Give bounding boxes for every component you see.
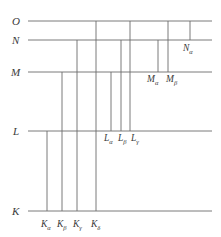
transition-label-M-alpha: Mα bbox=[147, 75, 158, 86]
subscript-N-alpha: α bbox=[189, 48, 192, 55]
subscript-K-gamma: γ bbox=[79, 224, 82, 231]
transition-label-M-beta: Mβ bbox=[166, 75, 177, 86]
transition-label-K-gamma: Kγ bbox=[73, 220, 82, 231]
subscript-K-delta: δ bbox=[97, 224, 100, 231]
transition-label-K-beta: Kβ bbox=[57, 220, 67, 231]
subscript-K-alpha: α bbox=[47, 224, 50, 231]
subscript-L-beta: β bbox=[123, 138, 126, 145]
transition-lines bbox=[47, 21, 190, 211]
energy-level-diagram: ONMLK KαKβKγKδLαLβLγMαMβNα bbox=[0, 0, 221, 237]
subscript-K-beta: β bbox=[63, 224, 66, 231]
subscript-L-alpha: α bbox=[109, 138, 112, 145]
transition-label-K-delta: Kδ bbox=[91, 220, 100, 231]
transition-label-L-gamma: Lγ bbox=[131, 134, 139, 145]
subscript-L-gamma: γ bbox=[136, 138, 139, 145]
diagram-canvas bbox=[0, 0, 221, 237]
level-label-n: N bbox=[12, 35, 19, 46]
transition-label-L-alpha: Lα bbox=[104, 134, 113, 145]
level-label-o: O bbox=[12, 16, 20, 27]
subscript-M-beta: β bbox=[174, 79, 177, 86]
transition-label-K-alpha: Kα bbox=[41, 220, 51, 231]
transition-label-N-alpha: Nα bbox=[183, 44, 193, 55]
level-label-l: L bbox=[13, 126, 19, 137]
level-label-m: M bbox=[11, 67, 20, 78]
subscript-M-alpha: α bbox=[155, 79, 158, 86]
transition-label-L-beta: Lβ bbox=[118, 134, 127, 145]
level-label-k: K bbox=[12, 206, 19, 217]
